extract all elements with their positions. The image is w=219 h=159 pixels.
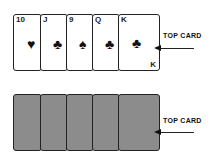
card-back-5-top-card — [118, 94, 160, 151]
card-5-top-card: K ♣ K — [118, 14, 160, 71]
arrow-left-icon — [154, 45, 161, 51]
spade-icon: ♠ — [79, 37, 86, 51]
club-icon: ♣ — [53, 37, 62, 51]
card-3: 9 ♠ — [66, 14, 94, 71]
card-back-4 — [92, 94, 120, 151]
heart-icon: ♥ — [27, 37, 35, 51]
card-rank: Q — [95, 15, 101, 24]
club-icon: ♣ — [132, 36, 141, 50]
card-rank: J — [43, 15, 47, 24]
card-rank: 9 — [69, 15, 73, 24]
club-icon: ♣ — [105, 37, 114, 51]
arrow-line — [158, 132, 194, 133]
card-rank: K — [121, 15, 127, 24]
card-rank: 10 — [16, 15, 25, 24]
arrow-left-icon — [154, 129, 161, 135]
top-card-label: TOP CARD — [163, 117, 202, 124]
card-back-3 — [66, 94, 94, 151]
card-1: 10 ♥ — [13, 14, 42, 71]
card-2: J ♣ — [40, 14, 68, 71]
card-4: Q ♣ — [92, 14, 120, 71]
card-back-1 — [13, 94, 42, 151]
card-rank-bottom: K — [150, 60, 156, 69]
top-card-label: TOP CARD — [163, 32, 202, 39]
arrow-line — [158, 48, 194, 49]
card-back-2 — [40, 94, 68, 151]
